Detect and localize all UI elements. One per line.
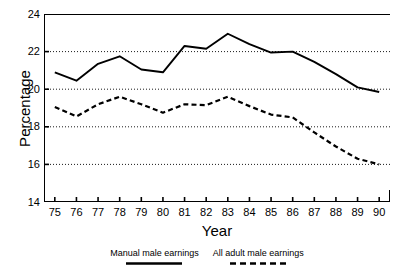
legend-item-all-adult-male-earnings: All adult male earnings	[213, 248, 304, 266]
y-axis-tick-labels: 141618202224	[4, 0, 40, 274]
series-line-all-adult-male-earnings	[55, 97, 379, 165]
legend-label: Manual male earnings	[110, 248, 199, 259]
data-series-group	[55, 34, 379, 165]
chart-figure: Percentage 141618202224 7576777879808182…	[0, 0, 414, 274]
chart-legend: Manual male earnings All adult male earn…	[0, 248, 414, 266]
x-tick-label: 90	[366, 206, 392, 218]
y-tick-label: 18	[10, 121, 40, 132]
x-tick-marks	[55, 197, 379, 202]
legend-item-manual-male-earnings: Manual male earnings	[110, 248, 199, 266]
y-tick-label: 14	[10, 197, 40, 208]
y-tick-label: 22	[10, 46, 40, 57]
y-tick-label: 16	[10, 159, 40, 170]
series-line-manual-male-earnings	[55, 34, 379, 92]
gridlines	[44, 52, 390, 165]
x-axis-tick-labels: 75767778798081828384858687888990	[44, 206, 390, 222]
legend-swatch-dashed	[230, 261, 286, 266]
legend-swatch-solid	[126, 261, 182, 266]
y-tick-label: 24	[10, 9, 40, 20]
x-axis-title: Year	[44, 222, 390, 239]
y-tick-label: 20	[10, 84, 40, 95]
legend-label: All adult male earnings	[213, 248, 304, 259]
y-tick-marks	[44, 14, 49, 202]
chart-canvas	[44, 14, 390, 202]
